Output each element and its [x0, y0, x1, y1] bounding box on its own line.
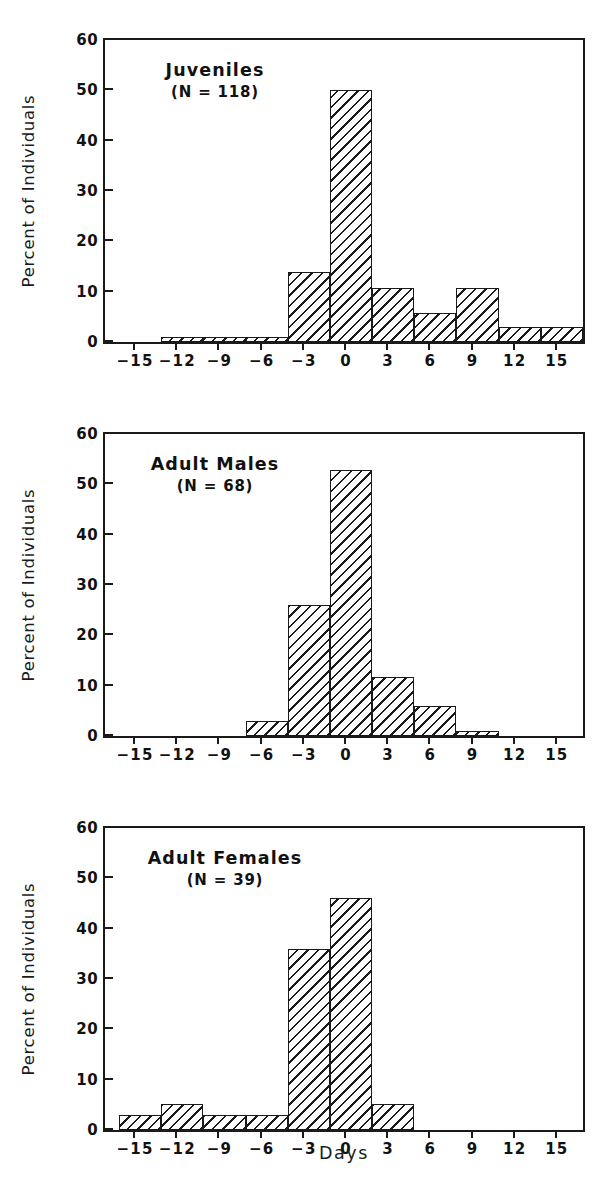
x-axis-tick: −3: [302, 1130, 304, 1138]
x-axis-tick: 15: [555, 736, 557, 744]
histogram-bar: [541, 327, 583, 342]
group-label-juveniles: Juveniles: [130, 60, 300, 80]
x-axis-tick: 3: [386, 736, 388, 744]
y-axis-tick: 10: [105, 684, 113, 686]
y-axis-tick: 40: [105, 533, 113, 535]
y-axis-tick: 0: [105, 734, 113, 736]
y-axis-tick: 30: [105, 583, 113, 585]
x-axis-tick-label: −15: [117, 352, 154, 370]
x-axis-tick: 0: [344, 342, 346, 350]
group-label-adult-females: Adult Females: [130, 848, 320, 868]
y-axis-tick-label: 0: [87, 727, 98, 745]
y-axis-tick: 40: [105, 927, 113, 929]
y-axis-tick-label: 50: [76, 475, 98, 493]
histogram-bar: [203, 337, 245, 342]
y-axis-tick-label: 50: [76, 869, 98, 887]
x-axis-tick: −12: [175, 1130, 177, 1138]
y-axis-tick-label: 20: [76, 232, 98, 250]
y-axis-tick-label: 60: [76, 819, 98, 837]
histogram-bar: [246, 721, 288, 736]
x-axis-tick: 6: [428, 342, 430, 350]
histogram-bar: [330, 90, 372, 342]
histogram-bar: [372, 288, 414, 342]
y-axis-title-adult-females: Percent of Individuals: [14, 826, 44, 1132]
x-axis-tick-label: 6: [425, 352, 437, 370]
x-axis-tick-label: 9: [467, 352, 479, 370]
x-axis-tick: 15: [555, 342, 557, 350]
x-axis-tick-label: 0: [340, 352, 352, 370]
x-axis-tick-label: −9: [207, 746, 232, 764]
x-axis-tick: 6: [428, 1130, 430, 1138]
x-axis-tick-label: −12: [159, 746, 196, 764]
x-axis-tick-label: 12: [503, 352, 526, 370]
y-axis-tick-label: 30: [76, 182, 98, 200]
x-axis-tick: 12: [513, 736, 515, 744]
histogram-bar: [288, 949, 330, 1130]
x-axis-tick-label: 9: [467, 746, 479, 764]
y-axis-tick-label: 0: [87, 1121, 98, 1139]
y-axis-tick-label: 30: [76, 576, 98, 594]
x-axis-title: Days: [103, 1143, 585, 1163]
y-axis-tick: 10: [105, 1078, 113, 1080]
histogram-bar: [330, 470, 372, 736]
y-axis-tick: 60: [105, 432, 113, 434]
histogram-figure: Percent of Individuals 0102030405060−15−…: [0, 0, 614, 1183]
x-axis-tick: −15: [133, 736, 135, 744]
x-axis-tick-label: −3: [291, 746, 316, 764]
x-axis-tick: −6: [260, 1130, 262, 1138]
histogram-bar: [288, 272, 330, 342]
y-axis-tick-label: 40: [76, 526, 98, 544]
y-axis-tick-label: 10: [76, 677, 98, 695]
x-axis-tick-label: 6: [425, 746, 437, 764]
y-axis-tick: 20: [105, 239, 113, 241]
y-axis-tick-label: 30: [76, 970, 98, 988]
y-axis-tick-label: 60: [76, 425, 98, 443]
x-axis-tick: −3: [302, 342, 304, 350]
x-axis-tick: 0: [344, 736, 346, 744]
y-axis-tick: 10: [105, 290, 113, 292]
x-axis-tick: 6: [428, 736, 430, 744]
x-axis-tick: 12: [513, 1130, 515, 1138]
x-axis-tick-label: −6: [249, 352, 274, 370]
panel-annotation-adult-females: Adult Females (N = 39): [130, 848, 320, 889]
histogram-bar: [203, 1115, 245, 1130]
y-axis-tick-label: 10: [76, 283, 98, 301]
x-axis-tick-label: 3: [382, 746, 394, 764]
x-axis-tick-label: −12: [159, 352, 196, 370]
y-axis-title-juveniles: Percent of Individuals: [14, 38, 44, 344]
x-axis-tick: 3: [386, 1130, 388, 1138]
histogram-bar: [456, 731, 498, 736]
y-axis-tick: 40: [105, 139, 113, 141]
y-axis-tick: 60: [105, 826, 113, 828]
sample-size-adult-females: (N = 39): [130, 871, 320, 889]
x-axis-tick: −6: [260, 342, 262, 350]
sample-size-adult-males: (N = 68): [130, 477, 300, 495]
y-axis-tick-label: 40: [76, 920, 98, 938]
x-axis-tick: 0: [344, 1130, 346, 1138]
y-axis-tick: 30: [105, 977, 113, 979]
x-axis-tick-label: 15: [545, 746, 568, 764]
x-axis-tick: −9: [217, 736, 219, 744]
y-axis-title-adult-males: Percent of Individuals: [14, 432, 44, 738]
sample-size-juveniles: (N = 118): [130, 83, 300, 101]
y-axis-tick: 60: [105, 38, 113, 40]
histogram-bar: [161, 337, 203, 342]
histogram-bar: [288, 605, 330, 736]
y-axis-tick: 50: [105, 482, 113, 484]
y-axis-tick: 0: [105, 340, 113, 342]
x-axis-tick: 3: [386, 342, 388, 350]
y-axis-tick-label: 0: [87, 333, 98, 351]
x-axis-tick: −12: [175, 736, 177, 744]
y-axis-tick: 20: [105, 633, 113, 635]
group-label-adult-males: Adult Males: [130, 454, 300, 474]
x-axis-tick-label: −3: [291, 352, 316, 370]
histogram-bar: [119, 1115, 161, 1130]
y-axis-tick-label: 20: [76, 1020, 98, 1038]
x-axis-tick-label: 15: [545, 352, 568, 370]
y-axis-tick-label: 50: [76, 81, 98, 99]
histogram-bar: [330, 898, 372, 1130]
x-axis-tick: 9: [471, 736, 473, 744]
y-axis-tick: 20: [105, 1027, 113, 1029]
histogram-bar: [372, 677, 414, 736]
x-axis-tick-label: 0: [340, 746, 352, 764]
